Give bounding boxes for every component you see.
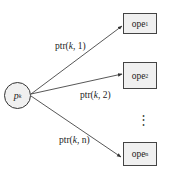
edge-label-suffix: , 2) <box>98 90 111 100</box>
edge-label-prefix: ptr( <box>80 90 94 100</box>
edge-n <box>31 96 121 157</box>
edge-label-prefix: ptr( <box>55 41 69 51</box>
target-label: ope <box>132 71 146 81</box>
target-box-ope-1: ope1 <box>123 13 157 34</box>
edge-label-suffix: , 1) <box>73 41 86 51</box>
edge-label-2: ptr(k, 2) <box>80 91 111 101</box>
target-label: ope <box>132 19 146 29</box>
target-subscript: 2 <box>145 73 148 79</box>
target-subscript: n <box>145 151 148 157</box>
target-box-ope-n: open <box>123 142 157 166</box>
edge-label-prefix: ptr( <box>59 135 73 145</box>
vertical-ellipsis: ⋮ <box>137 113 143 126</box>
target-subscript: 1 <box>145 21 148 27</box>
target-label: ope <box>132 149 146 159</box>
edge-label-suffix: , n) <box>77 135 90 145</box>
source-node-pk: pk <box>4 82 31 109</box>
source-node-subscript: k <box>19 93 22 99</box>
edge-label-1: ptr(k, 1) <box>55 42 86 52</box>
edge-label-n: ptr(k, n) <box>59 136 90 146</box>
target-box-ope-2: ope2 <box>123 62 157 89</box>
